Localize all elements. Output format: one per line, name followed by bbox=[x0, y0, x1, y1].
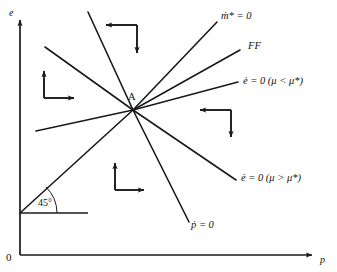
x-axis-label: p bbox=[320, 255, 325, 265]
angle-label: 45° bbox=[38, 198, 52, 208]
curve-edot-zero-mu-less bbox=[133, 82, 238, 110]
equilibrium-point-label: A bbox=[128, 92, 136, 103]
curve-label-edot-zero-mu-less: ė = 0 (μ < μ*) bbox=[243, 76, 303, 87]
diagram-canvas bbox=[0, 0, 337, 272]
arrow-pair-east bbox=[200, 110, 231, 137]
curve-label-edot-zero-mu-greater: ė = 0 (μ > μ*) bbox=[241, 173, 301, 184]
angle-annotation-group bbox=[20, 187, 88, 213]
arrow-pair-west bbox=[44, 71, 74, 98]
y-axis-label: e bbox=[9, 8, 13, 18]
curve-west-ray bbox=[36, 110, 133, 131]
curve-label-pdot-zero: ṗ = 0 bbox=[191, 220, 214, 231]
phase-diagram-figure: e p 0 A 45° ṁ* = 0 FF ė = 0 (μ < μ*) ė =… bbox=[0, 0, 337, 272]
arrow-pair-south bbox=[115, 163, 144, 190]
curve-label-mdot-star-zero: ṁ* = 0 bbox=[221, 11, 251, 22]
curve-northwest-steep-ray bbox=[88, 12, 133, 110]
arrow-pair-north bbox=[106, 25, 137, 53]
curve-ff-schedule bbox=[133, 50, 240, 110]
curve-northwest-ray bbox=[45, 47, 133, 110]
origin-label: 0 bbox=[6, 252, 12, 263]
curve-pdot-zero bbox=[133, 110, 189, 222]
curve-forty-five-degree-line bbox=[20, 110, 133, 213]
curve-edot-zero-mu-greater bbox=[133, 110, 236, 180]
curve-label-ff-schedule: FF bbox=[248, 41, 261, 52]
axis-group bbox=[20, 20, 312, 255]
curve-mdot-star-zero bbox=[133, 22, 217, 110]
